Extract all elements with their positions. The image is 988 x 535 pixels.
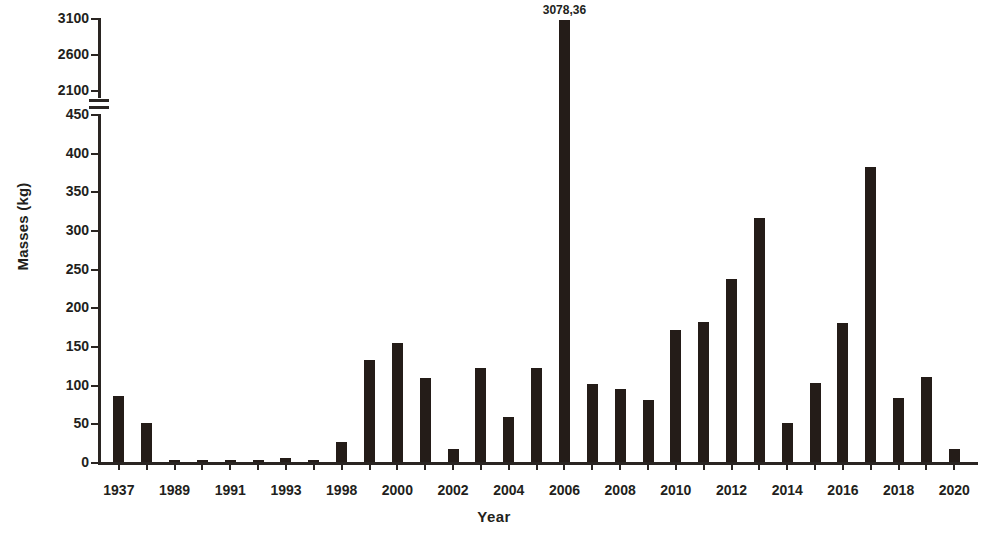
y-tick-label: 400 (66, 145, 89, 161)
x-tick-mark (675, 462, 677, 470)
bar (113, 396, 124, 462)
bar (949, 449, 960, 462)
x-tick-mark (118, 462, 120, 470)
bar (364, 360, 375, 462)
bar (754, 218, 765, 462)
x-tick-label: 1993 (270, 482, 301, 498)
y-tick-mark (91, 346, 98, 348)
x-tick-mark (229, 462, 231, 470)
x-tick-label: 1937 (103, 482, 134, 498)
y-tick-mark (91, 153, 98, 155)
x-tick-mark (842, 462, 844, 470)
y-tick-label: 150 (66, 338, 89, 354)
y-tick-label: 50 (73, 415, 89, 431)
x-tick-mark (870, 462, 872, 470)
bar (197, 460, 208, 462)
x-tick-mark (452, 462, 454, 470)
y-tick-mark (91, 114, 98, 116)
bar (615, 389, 626, 462)
x-tick-mark (146, 462, 148, 470)
x-tick-mark (396, 462, 398, 470)
x-tick-mark (731, 462, 733, 470)
y-tick-label: 300 (66, 222, 89, 238)
bar (308, 460, 319, 462)
bar (643, 400, 654, 462)
x-tick-mark (285, 462, 287, 470)
x-tick-mark (925, 462, 927, 470)
bar-chart: Masses (kg) Year 05010015020025030035040… (0, 0, 988, 535)
bar-value-label: 3078,36 (543, 3, 586, 17)
y-tick-label: 250 (66, 261, 89, 277)
bar (448, 449, 459, 462)
x-tick-mark (174, 462, 176, 470)
bar (141, 423, 152, 462)
bar (253, 460, 264, 462)
x-tick-label: 1989 (159, 482, 190, 498)
x-tick-label: 2002 (437, 482, 468, 498)
x-tick-mark (369, 462, 371, 470)
y-tick-mark (91, 18, 98, 20)
y-tick-mark (91, 269, 98, 271)
y-tick-mark (91, 423, 98, 425)
x-tick-label: 2008 (605, 482, 636, 498)
bar (921, 377, 932, 462)
x-tick-label: 1991 (215, 482, 246, 498)
y-tick-mark (91, 54, 98, 56)
x-tick-mark (257, 462, 259, 470)
bar (336, 442, 347, 462)
x-tick-label: 2010 (660, 482, 691, 498)
y-tick-mark (91, 385, 98, 387)
x-tick-mark (480, 462, 482, 470)
plot-area: 050100150200250300350400450210026003100 … (98, 10, 978, 465)
y-tick-mark (91, 307, 98, 309)
y-tick-label: 2100 (58, 82, 89, 98)
x-tick-label: 1998 (326, 482, 357, 498)
x-tick-mark (647, 462, 649, 470)
axis-break-icon (89, 98, 109, 112)
x-tick-label: 2018 (883, 482, 914, 498)
x-tick-mark (758, 462, 760, 470)
y-axis-line-lower (98, 114, 101, 465)
x-tick-mark (591, 462, 593, 470)
bar (670, 330, 681, 462)
bar (559, 20, 570, 462)
y-axis-line-upper (98, 18, 101, 98)
x-tick-label: 2016 (827, 482, 858, 498)
x-tick-mark (814, 462, 816, 470)
x-tick-mark (424, 462, 426, 470)
x-tick-mark (536, 462, 538, 470)
bar (865, 167, 876, 462)
x-tick-label: 2020 (939, 482, 970, 498)
bar (503, 417, 514, 462)
x-tick-mark (201, 462, 203, 470)
x-tick-mark (508, 462, 510, 470)
x-tick-label: 2012 (716, 482, 747, 498)
bar (726, 279, 737, 462)
x-tick-label: 2014 (772, 482, 803, 498)
bar (698, 322, 709, 462)
y-tick-label: 350 (66, 183, 89, 199)
x-tick-mark (563, 462, 565, 470)
x-axis-title: Year (0, 508, 988, 525)
y-tick-label: 0 (81, 454, 89, 470)
y-tick-label: 3100 (58, 10, 89, 26)
y-tick-mark (91, 230, 98, 232)
bar (225, 460, 236, 462)
y-tick-label: 2600 (58, 46, 89, 62)
bar (392, 343, 403, 462)
x-tick-mark (313, 462, 315, 470)
x-tick-mark (703, 462, 705, 470)
x-tick-mark (619, 462, 621, 470)
y-tick-mark (91, 191, 98, 193)
bar (837, 323, 848, 462)
y-tick-mark (91, 462, 98, 464)
x-tick-label: 2000 (382, 482, 413, 498)
y-tick-label: 100 (66, 377, 89, 393)
y-tick-label: 450 (66, 106, 89, 122)
bar (587, 384, 598, 462)
bar (420, 378, 431, 462)
x-tick-label: 2006 (549, 482, 580, 498)
x-tick-mark (786, 462, 788, 470)
x-tick-mark (898, 462, 900, 470)
x-tick-mark (953, 462, 955, 470)
